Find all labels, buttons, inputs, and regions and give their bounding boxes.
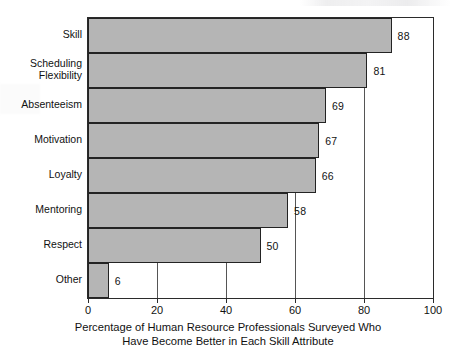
y-axis-category-labels: SkillScheduling FlexibilityAbsenteeismMo… <box>0 17 82 299</box>
bar-value-label: 67 <box>325 135 337 147</box>
bar-value-label: 81 <box>373 65 385 77</box>
bar-row: 88 <box>88 18 433 53</box>
x-axis-tick-label: 100 <box>424 304 442 316</box>
y-axis-category-label: Mentoring <box>0 204 82 216</box>
bar <box>88 53 367 88</box>
y-axis-category-label: Respect <box>0 239 82 251</box>
y-axis-category-label: Other <box>0 274 82 286</box>
y-axis-category-label: Scheduling Flexibility <box>0 58 82 81</box>
x-axis-tick-label: 80 <box>358 304 370 316</box>
bar-value-label: 50 <box>267 240 279 252</box>
x-axis-title-line-2: Have Become Better in Each Skill Attribu… <box>0 335 456 348</box>
bar-value-label: 66 <box>322 170 334 182</box>
x-axis-tick-label: 20 <box>151 304 163 316</box>
x-axis-tick-mark <box>157 299 158 303</box>
bar-value-label: 6 <box>115 275 121 287</box>
scan-artifact-top <box>300 0 450 6</box>
bar-value-label: 88 <box>398 30 410 42</box>
x-axis-tick-mark <box>295 299 296 303</box>
y-axis-category-label: Skill <box>0 29 82 41</box>
x-axis-tick-label: 0 <box>85 304 91 316</box>
bar-row: 50 <box>88 228 433 263</box>
x-axis-tick-mark <box>88 299 89 303</box>
x-axis-tick-mark <box>226 299 227 303</box>
y-axis-category-label: Loyalty <box>0 169 82 181</box>
plot-area: 888169676658506 <box>87 17 434 299</box>
bar <box>88 228 261 263</box>
bar <box>88 18 392 53</box>
y-axis-category-label: Absenteeism <box>0 99 82 111</box>
x-axis-title-line-1: Percentage of Human Resource Professiona… <box>75 321 382 333</box>
bar-row: 58 <box>88 193 433 228</box>
x-axis-title: Percentage of Human Resource Professiona… <box>0 321 456 348</box>
bar <box>88 263 109 298</box>
bar-value-label: 58 <box>294 205 306 217</box>
bar-series: 888169676658506 <box>88 18 433 298</box>
bar <box>88 193 288 228</box>
bar-row: 67 <box>88 123 433 158</box>
bar-row: 66 <box>88 158 433 193</box>
x-axis-tick-mark <box>433 299 434 303</box>
x-axis-tick-label: 40 <box>220 304 232 316</box>
bar-row: 6 <box>88 263 433 298</box>
x-axis-ticks: 020406080100 <box>87 299 434 319</box>
bar <box>88 123 319 158</box>
bar-value-label: 69 <box>332 100 344 112</box>
bar <box>88 158 316 193</box>
y-axis-category-label: Motivation <box>0 134 82 146</box>
x-axis-tick-mark <box>364 299 365 303</box>
bar-row: 69 <box>88 88 433 123</box>
x-axis-tick-label: 60 <box>289 304 301 316</box>
bar <box>88 88 326 123</box>
bar-row: 81 <box>88 53 433 88</box>
